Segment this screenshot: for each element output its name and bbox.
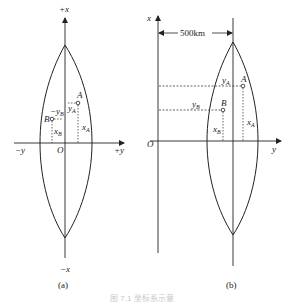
lens-outline-b: [207, 42, 258, 235]
figure-b: 500km A yA xA B yB xB x y O (b): [146, 13, 281, 290]
label-yb-b: yB: [191, 99, 200, 110]
label-point-b-b: B: [221, 98, 227, 108]
label-origin-a: O: [57, 145, 64, 155]
label-y-b: y: [271, 144, 276, 154]
diagram-canvas: A yA xA B −yB xB +x −x +y −y O (a) 500km: [0, 0, 287, 304]
point-a-marker-a: [76, 101, 80, 105]
point-a-marker-b: [241, 84, 245, 88]
label-neg-y-a: −y: [15, 145, 25, 155]
label-point-a-b: A: [240, 74, 247, 84]
label-pos-y-a: +y: [114, 145, 124, 155]
figure-caption: 图 7.1 坐标系示意: [110, 293, 174, 303]
label-pos-x-a: +x: [59, 4, 69, 14]
label-point-a-a: A: [76, 90, 83, 100]
label-yb-a: −yB: [50, 106, 64, 117]
figure-a: A yA xA B −yB xB +x −x +y −y O (a): [14, 4, 124, 290]
label-ya-a: yA: [67, 103, 76, 114]
point-b-marker-a: [50, 117, 54, 121]
label-500km: 500km: [180, 28, 205, 38]
label-xb-a: xB: [53, 126, 62, 137]
label-x-b: x: [146, 13, 151, 23]
label-xb-b: xB: [212, 124, 221, 135]
label-xa-a: xA: [81, 122, 90, 133]
point-b-marker-b: [221, 108, 225, 112]
caption-a: (a): [58, 280, 68, 290]
lens-outline-a: [40, 45, 92, 238]
caption-b: (b): [226, 280, 237, 290]
label-neg-x-a: −x: [60, 264, 70, 274]
label-xa-b: xA: [246, 117, 255, 128]
label-ya-b: yA: [221, 75, 230, 86]
label-origin-b: O: [147, 139, 154, 149]
